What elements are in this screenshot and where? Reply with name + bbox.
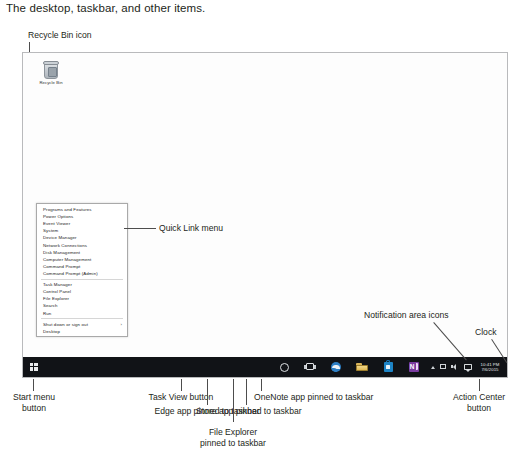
- leader-line-task-view-button: [181, 379, 182, 391]
- quick-link-item-device-manager[interactable]: Device Manager: [37, 234, 127, 241]
- clock-date: 7/6/2015: [475, 367, 505, 372]
- quick-link-item-shut-down-label: Shut down or sign out: [43, 322, 88, 327]
- edge-taskbar-button[interactable]: [323, 357, 349, 377]
- annotation-action-center-line2: button: [440, 403, 518, 414]
- annotation-start-menu-button-line1: Start menu: [5, 392, 63, 403]
- quick-link-item-command-prompt[interactable]: Command Prompt: [37, 263, 127, 270]
- task-view-button[interactable]: [297, 357, 323, 377]
- quick-link-item-shut-down-or-sign-out[interactable]: Shut down or sign out ›: [37, 321, 127, 328]
- quick-link-item-command-prompt-admin[interactable]: Command Prompt (Admin): [37, 270, 127, 277]
- annotation-clock-label: Clock: [475, 327, 497, 338]
- annotation-start-menu-button: Start menu button: [5, 392, 63, 413]
- quick-link-separator-1: [41, 279, 123, 280]
- annotation-notification-area-label: Notification area icons: [364, 310, 449, 321]
- annotation-quick-link-menu-label: Quick Link menu: [159, 223, 223, 234]
- windows-logo-icon: [30, 363, 38, 371]
- annotation-start-menu-button-line2: button: [5, 403, 63, 414]
- volume-icon: [451, 364, 458, 371]
- leader-line-quick-link-menu: [124, 228, 156, 229]
- quick-link-item-power-options[interactable]: Power Options: [37, 213, 127, 220]
- leader-line-store-app: [246, 379, 247, 405]
- quick-link-item-disk-management[interactable]: Disk Management: [37, 249, 127, 256]
- show-hidden-icons-chevron-icon: [431, 366, 435, 369]
- leader-line-start-menu-button: [33, 379, 34, 391]
- leader-line-onenote-app: [261, 379, 262, 391]
- show-hidden-icons-button[interactable]: [427, 357, 438, 377]
- quick-link-menu[interactable]: Programs and Features Power Options Even…: [36, 203, 128, 337]
- annotation-file-explorer-line1: File Explorer: [170, 427, 296, 438]
- annotation-task-view-button: Task View button: [114, 392, 248, 403]
- recycle-bin-desktop-icon[interactable]: Recycle Bin: [32, 60, 70, 85]
- quick-link-item-task-manager[interactable]: Task Manager: [37, 281, 127, 288]
- taskbar-clock[interactable]: 10:41 PM 7/6/2015: [475, 362, 507, 372]
- notification-area[interactable]: [427, 357, 461, 377]
- annotation-file-explorer: File Explorer pinned to taskbar: [170, 427, 296, 448]
- quick-link-separator-2: [41, 318, 123, 319]
- quick-link-item-system[interactable]: System: [37, 227, 127, 234]
- task-view-icon: [305, 363, 316, 371]
- annotation-store-app: Store app pinned to taskbar: [196, 406, 302, 417]
- file-explorer-icon: [356, 363, 368, 372]
- network-icon: [440, 364, 447, 370]
- annotation-action-center-button: Action Center button: [440, 392, 518, 413]
- file-explorer-taskbar-button[interactable]: [349, 357, 375, 377]
- annotation-action-center-line1: Action Center: [440, 392, 518, 403]
- quick-link-item-file-explorer[interactable]: File Explorer: [37, 295, 127, 302]
- recycle-bin-label: Recycle Bin: [32, 80, 70, 85]
- store-taskbar-button[interactable]: [375, 357, 401, 377]
- annotation-file-explorer-line2: pinned to taskbar: [170, 438, 296, 449]
- quick-link-item-control-panel[interactable]: Control Panel: [37, 288, 127, 295]
- store-icon: [384, 362, 393, 372]
- start-menu-button[interactable]: [23, 357, 45, 377]
- onenote-icon: [409, 362, 419, 372]
- onenote-taskbar-button[interactable]: [401, 357, 427, 377]
- quick-link-item-network-connections[interactable]: Network Connections: [37, 242, 127, 249]
- desktop-screen-frame: Recycle Bin Programs and Features Power …: [22, 52, 508, 378]
- leader-line-action-center-button: [479, 379, 480, 391]
- annotation-recycle-bin-label: Recycle Bin icon: [28, 30, 92, 41]
- recycle-bin-icon: [42, 60, 60, 79]
- quick-link-item-programs-and-features[interactable]: Programs and Features: [37, 206, 127, 213]
- leader-line-edge-app: [207, 379, 208, 405]
- edge-icon: [331, 362, 341, 372]
- cortana-search-icon: [280, 363, 289, 372]
- quick-link-item-computer-management[interactable]: Computer Management: [37, 256, 127, 263]
- quick-link-item-search[interactable]: Search: [37, 302, 127, 309]
- cortana-search-button[interactable]: [271, 357, 297, 377]
- action-center-button[interactable]: [461, 357, 475, 377]
- annotation-onenote-app: OneNote app pinned to taskbar: [254, 392, 373, 403]
- volume-button[interactable]: [449, 357, 460, 377]
- quick-link-item-run[interactable]: Run: [37, 310, 127, 317]
- taskbar-search-box[interactable]: [45, 357, 271, 377]
- action-center-icon: [464, 364, 471, 371]
- chevron-right-icon: ›: [120, 321, 122, 328]
- quick-link-item-desktop[interactable]: Desktop: [37, 328, 127, 335]
- page-caption: The desktop, taskbar, and other items.: [6, 3, 205, 14]
- taskbar[interactable]: 10:41 PM 7/6/2015: [23, 357, 507, 377]
- quick-link-item-event-viewer[interactable]: Event Viewer: [37, 220, 127, 227]
- network-status-button[interactable]: [438, 357, 449, 377]
